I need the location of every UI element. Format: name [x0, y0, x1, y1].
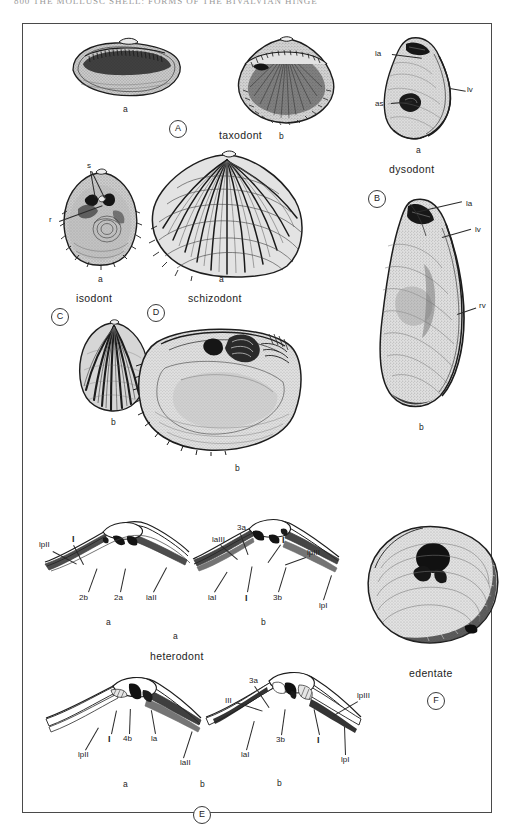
anat-label-lpI-upper-b: lpI: [319, 602, 327, 610]
specimen-edentate: [361, 522, 505, 650]
panel-letter-E: E: [193, 806, 211, 824]
anat-label-as-dysodont-a: as: [375, 100, 383, 108]
anat-label-I-upper-a: I: [72, 535, 75, 544]
caption-heterodont-group-b: b: [200, 780, 205, 789]
anat-label-s-isodont: s: [87, 162, 91, 170]
anat-label-lpII-lower-a: lpII: [78, 751, 89, 759]
anat-label-r-isodont: r: [49, 216, 52, 224]
plate-frame: a: [22, 23, 492, 813]
panel-letter-A: A: [169, 120, 187, 138]
specimen-dysodont-b: [378, 194, 478, 412]
type-label-isodont: isodont: [76, 293, 112, 304]
anat-label-4b-lower-a: 4b: [123, 735, 132, 743]
running-head-text: 800 THE MOLLUSC SHELL: FORMS OF THE BIVA…: [0, 0, 516, 6]
plate-inner: a: [23, 24, 491, 812]
running-head: 800 THE MOLLUSC SHELL: FORMS OF THE BIVA…: [0, 0, 516, 8]
type-label-schizodont: schizodont: [188, 293, 242, 304]
panel-letter-C: C: [51, 308, 69, 326]
anat-label-lpII-upper-a: lpII: [39, 541, 50, 549]
anat-label-lv-dysodont-a: lv: [467, 86, 473, 94]
anat-label-laII-lower-a: laII: [180, 759, 191, 767]
caption-heterodont-lower-b: b: [277, 779, 282, 788]
anat-label-I-upper-b: I: [282, 536, 285, 545]
anat-label-lpIII-upper-b: lpIII: [307, 549, 320, 557]
anat-label-2b-upper-a: 2b: [79, 594, 88, 602]
caption-heterodont-lower-a: a: [123, 780, 128, 789]
caption-heterodont-group-a: a: [173, 632, 178, 641]
caption-heterodont-upper-b: b: [261, 618, 266, 627]
anat-label-lpI-lower-b: lpI: [341, 756, 349, 764]
anat-label-lv-dysodont-b: lv: [475, 226, 481, 234]
specimen-schizodont-b: [133, 320, 308, 455]
anat-label-laII-upper-a: laII: [146, 594, 157, 602]
caption-dysodont-b: b: [419, 423, 424, 432]
specimen-isodont-a: [58, 167, 144, 271]
anat-label-laI-upper-b: laI: [208, 594, 216, 602]
caption-isodont-a: a: [98, 275, 103, 284]
anat-label-3b-upper-b: 3b: [273, 594, 282, 602]
leader-line-laII-lower-a: [183, 731, 192, 758]
anat-label-la-lower-a: la: [151, 735, 157, 743]
anat-label-rv-dysodont-b: rv: [479, 302, 486, 310]
anat-label-3b-lower-b: 3b: [276, 736, 285, 744]
anat-label-2a-upper-a: 2a: [114, 594, 123, 602]
hinge-diagram-heterodont-upper-a: [41, 514, 191, 574]
caption-dysodont-a: a: [416, 146, 421, 155]
anat-label-3a-lower-b: 3a: [249, 677, 258, 685]
anat-label-3a-upper-b: 3a: [237, 524, 246, 532]
anat-label-lpIII-lower-b: lpIII: [357, 692, 370, 700]
specimen-taxodont-b: [231, 36, 341, 126]
caption-isodont-b: b: [111, 418, 116, 427]
specimen-taxodont-a: [67, 36, 185, 100]
anat-label-laI-lower-b: laI: [241, 751, 249, 759]
type-label-taxodont: taxodont: [219, 130, 262, 141]
type-label-edentate: edentate: [409, 668, 453, 679]
anat-label-III-lower-b: III: [225, 697, 232, 705]
caption-schizodont-b: b: [235, 464, 240, 473]
specimen-schizodont-a: [147, 152, 309, 280]
anat-label-la-dysodont-a: la: [375, 50, 381, 58]
hinge-diagram-heterodont-lower-a: [43, 672, 203, 734]
specimen-dysodont-a: [378, 34, 462, 144]
anat-label-I-lower-b: I: [317, 736, 320, 745]
anat-label-I-lower-a: I: [108, 735, 111, 744]
caption-taxodont-a: a: [123, 105, 128, 114]
type-label-dysodont: dysodont: [389, 164, 434, 175]
anat-label-laIII-upper-b: laIII: [212, 536, 225, 544]
anat-label-I2-upper-b: I: [245, 594, 248, 603]
hinge-diagram-heterodont-upper-b: [191, 511, 341, 577]
type-label-heterodont: heterodont: [150, 651, 204, 662]
leader-line-lpI-upper-b: [323, 575, 332, 600]
caption-schizodont-a: a: [219, 275, 224, 284]
caption-heterodont-upper-a: a: [106, 618, 111, 627]
caption-taxodont-b: b: [279, 132, 284, 141]
anat-label-la-dysodont-b: la: [466, 200, 472, 208]
panel-letter-F: F: [427, 692, 445, 710]
